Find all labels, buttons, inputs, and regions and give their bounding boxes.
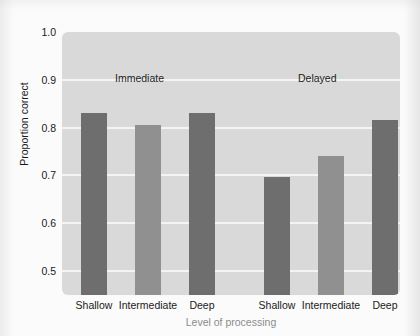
bar [81,113,107,295]
bar [189,113,215,295]
gridline [62,127,400,129]
x-axis-tick-label: Deep [189,299,214,311]
gridline [62,174,400,176]
y-axis-tick-label: 1.0 [2,26,56,38]
bar [318,156,344,295]
y-axis-title: Proportion correct [18,54,30,194]
bar-chart-figure: 1.00.90.80.70.60.5 Proportion correct Im… [0,0,420,336]
plot-area: ImmediateDelayed [62,32,400,295]
group-annotation-label: Immediate [115,72,164,84]
gridline [62,222,400,224]
x-axis-tick-label: Intermediate [302,299,360,311]
bar [264,177,290,295]
x-axis-tick-label: Deep [372,299,397,311]
x-axis-tick-label: Shallow [259,299,296,311]
group-annotation-label: Delayed [298,72,337,84]
gridline [62,270,400,272]
x-axis-tick-label: Shallow [76,299,113,311]
bar [372,120,398,295]
x-axis-ticks: ShallowIntermediateDeepShallowIntermedia… [62,299,400,315]
y-axis-tick-label: 0.6 [2,217,56,229]
x-axis-title: Level of processing [62,316,400,328]
x-axis-tick-label: Intermediate [119,299,177,311]
bar [135,125,161,295]
y-axis-tick-label: 0.5 [2,265,56,277]
gridline [62,79,400,81]
